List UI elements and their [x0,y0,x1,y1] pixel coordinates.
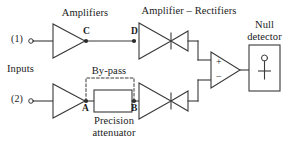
input-terminal-1-icon [29,39,34,44]
label-input-1: (1) [11,34,23,45]
amp-rectifier-top-symbol [139,23,171,59]
precision-attenuator-box [94,90,132,112]
label-precision-attenuator-line1: Precision [85,115,143,126]
label-amplifiers: Amplifiers [52,7,118,18]
diode-top-anode-triangle-icon [171,31,188,51]
label-amplifier-rectifiers: Amplifier – Rectifiers [134,5,244,16]
node-C-dot [84,39,88,43]
node-D-dot [132,39,136,43]
label-node-B: B [131,104,137,114]
amplifier-top-symbol [53,24,85,58]
label-node-A: A [82,104,89,114]
label-diffamp-plus: + [216,57,222,68]
label-bypass: By-pass [83,65,135,76]
label-input-2: (2) [11,94,23,105]
label-null-detector-line2: detector [237,31,285,42]
input-terminal-2-icon [29,99,34,104]
null-detector-meter-circle-icon [262,55,268,61]
label-inputs: Inputs [7,63,34,74]
label-precision-attenuator-line2: attenuator [85,127,143,138]
circuit-diagram: Amplifiers Amplifier – Rectifiers (1) In… [0,0,285,146]
label-null-detector-line1: Null [237,19,285,30]
label-node-D: D [131,27,138,37]
amp-rectifier-bottom-symbol [139,83,171,119]
label-diffamp-minus: − [216,72,222,83]
amplifier-bottom-symbol [53,84,85,118]
diode-bottom-anode-triangle-icon [171,91,188,111]
label-node-C: C [83,27,90,37]
